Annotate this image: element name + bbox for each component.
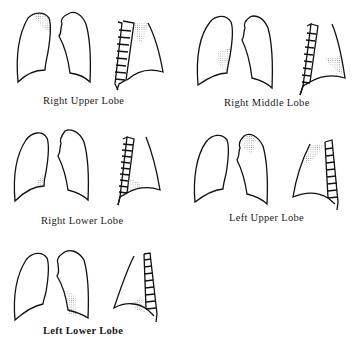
shaded-region-icon	[134, 23, 148, 45]
rib-column-icon	[115, 21, 134, 90]
panel-right-upper-lobe: Right Upper Lobe	[0, 0, 175, 120]
lung-outline-icon	[14, 133, 48, 201]
rib-column-icon	[144, 253, 157, 322]
caption-right-lower-lobe: Right Lower Lobe	[41, 215, 123, 226]
panel-left-lower-lobe: Left Lower Lobe	[0, 240, 175, 349]
caption-right-middle-lobe: Right Middle Lobe	[224, 97, 310, 108]
panel-right-lower-lobe: Right Lower Lobe	[0, 120, 175, 240]
lung-outline-icon	[310, 24, 345, 82]
caption-right-upper-lobe: Right Upper Lobe	[43, 95, 124, 106]
lung-outline-icon	[59, 12, 90, 82]
panel-left-upper-lobe: Left Upper Lobe	[180, 120, 355, 240]
shaded-region-icon	[242, 135, 256, 154]
rib-column-icon	[325, 140, 338, 210]
shaded-region-icon	[304, 144, 324, 166]
caption-left-upper-lobe: Left Upper Lobe	[229, 212, 304, 223]
shaded-region-icon	[325, 56, 343, 76]
rib-column-icon	[300, 24, 318, 95]
panel-right-middle-lobe: Right Middle Lobe	[180, 0, 355, 120]
shaded-region-icon	[127, 178, 145, 192]
caption-left-lower-lobe: Left Lower Lobe	[43, 325, 123, 336]
lung-outline-icon	[14, 253, 48, 320]
rib-column-icon	[118, 137, 134, 205]
lung-outline-icon	[58, 130, 88, 200]
lung-outline-icon	[242, 16, 272, 88]
lung-outline-icon	[194, 135, 228, 202]
shaded-region-icon	[66, 290, 77, 317]
